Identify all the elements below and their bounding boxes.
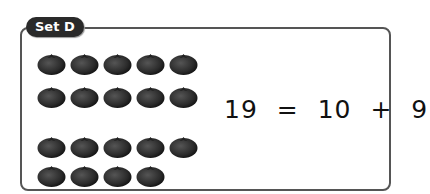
tomato-icon bbox=[136, 52, 165, 75]
tomato-icon bbox=[169, 135, 198, 158]
tomato-icon bbox=[103, 135, 132, 158]
equals-sign: = bbox=[277, 95, 299, 124]
equation-total: 19 bbox=[224, 95, 258, 124]
tomato-icon bbox=[37, 164, 66, 187]
plus-sign: + bbox=[370, 95, 392, 124]
tomato-icon bbox=[136, 135, 165, 158]
tomato-icon bbox=[169, 85, 198, 108]
tomato-icon bbox=[169, 52, 198, 75]
tomato-icon bbox=[70, 52, 99, 75]
equation: 19 = 10 + 9 bbox=[224, 95, 430, 124]
equation-tens: 10 bbox=[318, 95, 352, 124]
tomato-icon bbox=[103, 52, 132, 75]
tomato-icon bbox=[103, 164, 132, 187]
tomato-icon bbox=[70, 85, 99, 108]
equation-ones: 9 bbox=[411, 95, 428, 124]
tomato-icon bbox=[37, 85, 66, 108]
tomato-icon bbox=[136, 164, 165, 187]
tomato-icon bbox=[136, 85, 165, 108]
tomato-icon bbox=[70, 135, 99, 158]
tomato-icon bbox=[70, 164, 99, 187]
tomato-icon bbox=[37, 52, 66, 75]
tomato-icon bbox=[37, 135, 66, 158]
set-label: Set D bbox=[26, 17, 84, 37]
tomato-icon bbox=[103, 85, 132, 108]
